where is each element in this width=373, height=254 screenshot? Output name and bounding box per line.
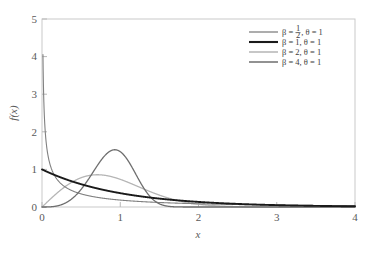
y-tick-label: 1 <box>32 163 38 175</box>
curve-beta-one-half <box>43 55 355 206</box>
legend-label-beta-one: β = 1, θ = 1 <box>282 37 321 47</box>
curve-beta-four <box>42 150 355 207</box>
x-tick-label: 0 <box>39 211 45 223</box>
weibull-pdf-figure: 012345 01234 x f(x) β = 12, θ = 1β = 1, … <box>0 0 373 254</box>
x-tick-label: 1 <box>118 211 124 223</box>
chart-canvas: 012345 01234 x f(x) β = 12, θ = 1β = 1, … <box>0 0 373 254</box>
y-axis-title: f(x) <box>7 105 20 121</box>
y-tick-label: 5 <box>32 13 38 25</box>
legend: β = 12, θ = 1β = 1, θ = 1β = 2, θ = 1β =… <box>246 22 351 70</box>
y-tick-label: 4 <box>32 50 38 62</box>
y-tick-label: 2 <box>32 126 38 138</box>
y-tick-label: 0 <box>32 201 38 213</box>
legend-label-beta-two: β = 2, θ = 1 <box>282 47 321 57</box>
legend-label-beta-four: β = 4, θ = 1 <box>282 57 321 67</box>
legend-items: β = 12, θ = 1β = 1, θ = 1β = 2, θ = 1β =… <box>249 23 323 67</box>
x-tick-label: 4 <box>352 211 358 223</box>
x-axis-title: x <box>195 228 201 240</box>
x-tick-label: 3 <box>274 211 280 223</box>
y-tick-label: 3 <box>32 88 38 100</box>
data-curves <box>42 55 355 207</box>
x-tick-label: 2 <box>196 211 202 223</box>
legend-label-theta-beta-one-half: , θ = 1 <box>301 27 323 37</box>
legend-label-beta-one-half: β = <box>282 27 293 37</box>
